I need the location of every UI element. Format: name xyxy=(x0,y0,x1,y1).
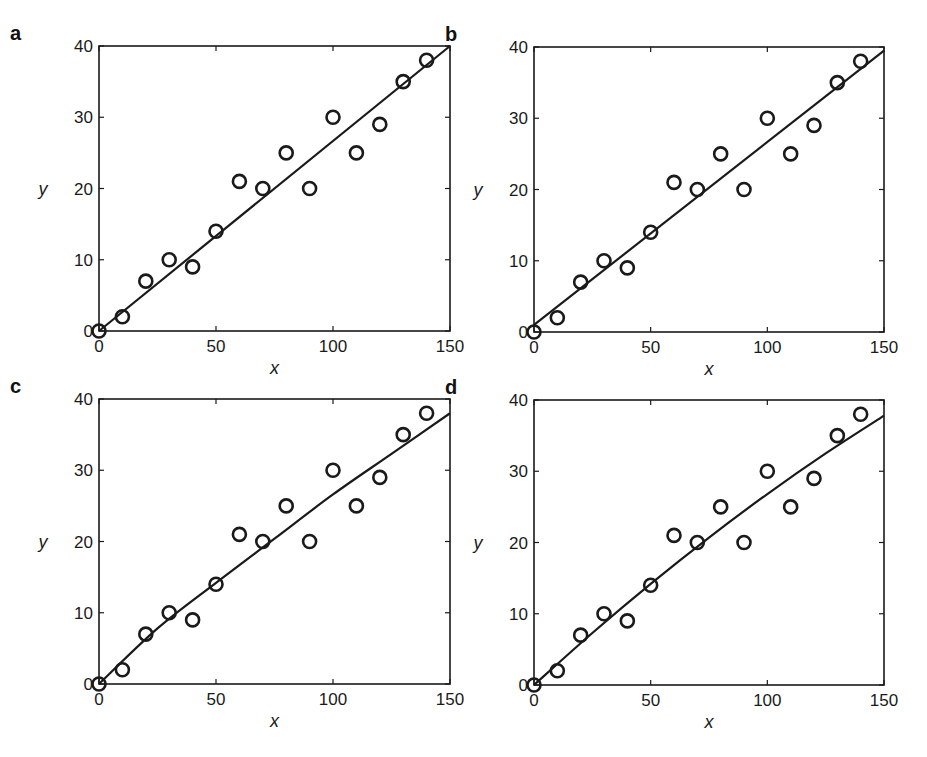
y-axis-label: y xyxy=(37,179,49,199)
panel-label: a xyxy=(10,22,22,44)
data-point-marker xyxy=(373,118,386,131)
data-point-marker xyxy=(761,465,774,478)
data-point-marker xyxy=(691,183,704,196)
data-point-marker xyxy=(854,55,867,68)
data-point-marker xyxy=(784,500,797,513)
data-point-marker xyxy=(186,613,199,626)
x-tick-label: 100 xyxy=(319,690,347,709)
x-tick-label: 0 xyxy=(94,690,103,709)
fit-line xyxy=(99,46,450,331)
y-tick-label: 40 xyxy=(74,390,93,409)
y-tick-label: 20 xyxy=(74,533,93,552)
x-axis-label: x xyxy=(704,359,715,379)
axes-frame xyxy=(99,399,450,684)
data-point-marker xyxy=(303,182,316,195)
x-tick-label: 100 xyxy=(753,338,781,357)
x-tick-label: 150 xyxy=(436,337,464,356)
x-tick-label: 100 xyxy=(753,691,781,710)
panel-b: b050100150010203040xy xyxy=(445,23,898,379)
data-point-marker xyxy=(714,147,727,160)
data-point-marker xyxy=(186,260,199,273)
data-point-marker xyxy=(420,407,433,420)
data-point-marker xyxy=(598,607,611,620)
data-point-marker xyxy=(668,529,681,542)
data-point-marker xyxy=(551,664,564,677)
panel-label: c xyxy=(10,375,21,397)
data-point-marker xyxy=(808,119,821,132)
y-tick-label: 30 xyxy=(509,109,528,128)
data-point-marker xyxy=(350,499,363,512)
x-axis-label: x xyxy=(269,358,280,378)
data-point-marker xyxy=(350,146,363,159)
y-axis-label: y xyxy=(472,180,484,200)
data-point-marker xyxy=(831,429,844,442)
data-point-marker xyxy=(551,311,564,324)
y-tick-label: 10 xyxy=(509,605,528,624)
axes-frame xyxy=(534,400,884,685)
x-tick-label: 50 xyxy=(207,690,226,709)
figure-canvas: a050100150010203040xy b05010015001020304… xyxy=(0,0,927,757)
data-point-marker xyxy=(163,253,176,266)
panel-label: d xyxy=(445,376,457,398)
x-tick-label: 50 xyxy=(641,338,660,357)
y-tick-label: 40 xyxy=(509,391,528,410)
x-tick-label: 0 xyxy=(94,337,103,356)
panel-d: d050100150010203040xy xyxy=(445,376,898,732)
data-point-marker xyxy=(210,578,223,591)
axes-frame xyxy=(534,47,884,332)
x-tick-label: 150 xyxy=(436,690,464,709)
data-point-marker xyxy=(233,528,246,541)
data-point-marker xyxy=(808,472,821,485)
y-tick-label: 10 xyxy=(509,252,528,271)
data-point-marker xyxy=(397,428,410,441)
data-point-marker xyxy=(854,408,867,421)
data-point-marker xyxy=(116,663,129,676)
data-point-marker xyxy=(303,535,316,548)
x-tick-label: 150 xyxy=(870,338,898,357)
panel-c: c050100150010203040xy xyxy=(10,375,464,731)
y-tick-label: 30 xyxy=(509,462,528,481)
x-tick-label: 50 xyxy=(641,691,660,710)
data-point-marker xyxy=(714,500,727,513)
fit-line xyxy=(99,413,450,684)
data-point-marker xyxy=(574,276,587,289)
y-tick-label: 40 xyxy=(74,37,93,56)
y-tick-label: 20 xyxy=(509,534,528,553)
x-tick-label: 0 xyxy=(529,338,538,357)
data-point-marker xyxy=(621,614,634,627)
x-axis-label: x xyxy=(704,712,715,732)
data-point-marker xyxy=(644,579,657,592)
data-point-marker xyxy=(738,536,751,549)
data-point-marker xyxy=(327,464,340,477)
y-tick-label: 20 xyxy=(509,181,528,200)
y-axis-label: y xyxy=(37,532,49,552)
y-tick-label: 10 xyxy=(74,251,93,270)
y-tick-label: 10 xyxy=(74,604,93,623)
x-tick-label: 100 xyxy=(319,337,347,356)
x-tick-label: 50 xyxy=(207,337,226,356)
x-axis-label: x xyxy=(269,711,280,731)
data-point-marker xyxy=(784,147,797,160)
x-tick-label: 0 xyxy=(529,691,538,710)
data-point-marker xyxy=(233,175,246,188)
y-tick-label: 40 xyxy=(509,38,528,57)
data-point-marker xyxy=(373,471,386,484)
y-tick-label: 30 xyxy=(74,461,93,480)
data-point-marker xyxy=(738,183,751,196)
y-tick-label: 30 xyxy=(74,108,93,127)
data-point-marker xyxy=(256,535,269,548)
data-point-marker xyxy=(598,254,611,267)
fit-line xyxy=(534,416,884,685)
x-tick-label: 150 xyxy=(870,691,898,710)
data-point-marker xyxy=(668,176,681,189)
data-point-marker xyxy=(761,112,774,125)
panel-label: b xyxy=(445,23,457,45)
data-point-marker xyxy=(621,261,634,274)
data-point-marker xyxy=(327,111,340,124)
data-point-marker xyxy=(139,275,152,288)
y-tick-label: 20 xyxy=(74,180,93,199)
y-axis-label: y xyxy=(472,533,484,553)
panel-a: a050100150010203040xy xyxy=(10,22,464,378)
data-point-marker xyxy=(280,146,293,159)
data-point-marker xyxy=(280,499,293,512)
